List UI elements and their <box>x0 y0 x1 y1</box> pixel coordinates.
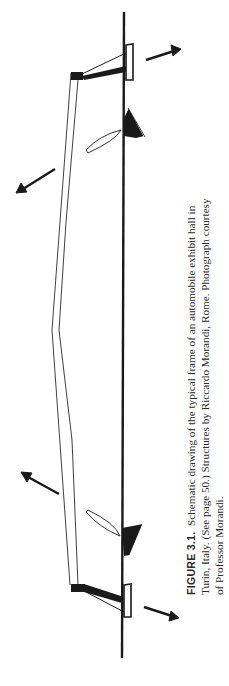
figure-3-1: FIGURE 3.1. Schematic drawing of the typ… <box>0 0 229 686</box>
figure-label: FIGURE 3.1. <box>185 532 197 595</box>
caption-line-3: of Professor Morandi. <box>212 95 226 595</box>
arrow-bottom-right <box>144 607 179 621</box>
ground-line <box>122 12 124 658</box>
beam-outer-edge <box>52 73 71 585</box>
arrow-top-left <box>16 169 55 193</box>
beam-inner-edge <box>59 80 78 585</box>
figure-caption: FIGURE 3.1. Schematic drawing of the typ… <box>184 95 226 595</box>
top-strut <box>86 108 145 153</box>
bottom-strut <box>86 510 143 556</box>
caption-line-1: FIGURE 3.1. Schematic drawing of the typ… <box>184 95 198 595</box>
arrow-top-right <box>146 45 181 60</box>
caption-line-2: Turin, Italy. (See page 50.) Structures … <box>198 95 212 595</box>
arrow-bottom-left <box>21 472 59 494</box>
